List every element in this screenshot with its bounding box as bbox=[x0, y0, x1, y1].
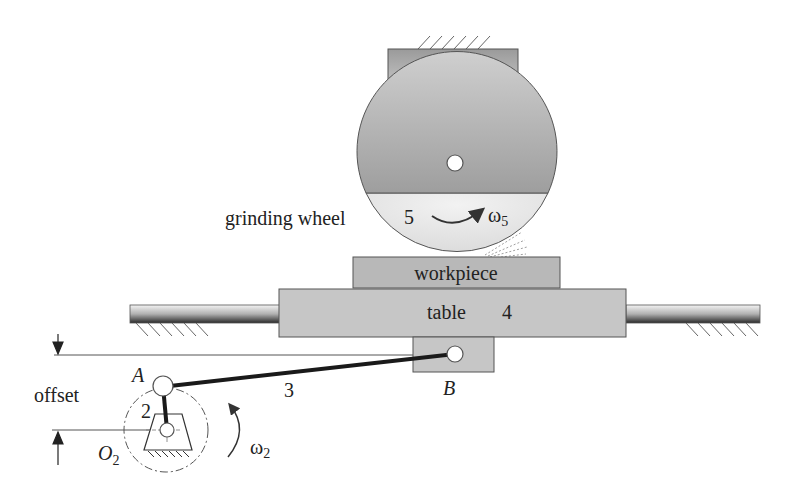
grinding-machine-diagram: grinding wheel 5 ω5 workpiece table 4 bbox=[0, 0, 796, 494]
offset-label: offset bbox=[34, 384, 80, 406]
connecting-rod-3 bbox=[170, 354, 455, 386]
guide-rod-right bbox=[626, 305, 760, 323]
ground-hatch-top bbox=[418, 36, 490, 49]
point-b-label: B bbox=[443, 377, 455, 399]
omega2-arrow bbox=[228, 405, 240, 457]
grinding-wheel-upper bbox=[357, 52, 557, 193]
link2-label: 2 bbox=[141, 400, 151, 422]
wheel-center-pin bbox=[447, 155, 463, 171]
wheel-number-label: 5 bbox=[404, 206, 414, 228]
pin-a bbox=[153, 376, 173, 396]
pivot-o2 bbox=[160, 423, 174, 437]
point-a-label: A bbox=[130, 364, 145, 386]
grinding-wheel-label: grinding wheel bbox=[225, 207, 346, 230]
ground-hatch-crank bbox=[148, 451, 189, 457]
pivot-o2-label: O2 bbox=[98, 442, 119, 468]
guide-rod-left bbox=[130, 305, 280, 323]
ground-hatch-left bbox=[136, 323, 208, 336]
pin-b bbox=[447, 346, 463, 362]
table-label: table bbox=[427, 301, 466, 323]
table-number-label: 4 bbox=[502, 301, 512, 323]
ground-hatch-right bbox=[686, 323, 758, 336]
workpiece-label: workpiece bbox=[414, 262, 497, 285]
omega2-label: ω2 bbox=[250, 436, 270, 461]
link3-label: 3 bbox=[284, 379, 294, 401]
